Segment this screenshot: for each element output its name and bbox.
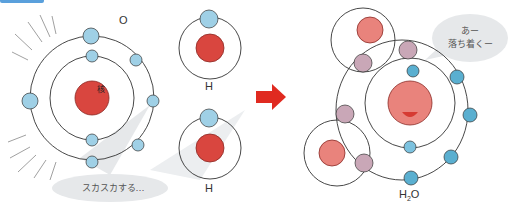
speech-text-left: スカスカする… xyxy=(68,182,158,195)
hydrogen-top-label: H xyxy=(205,80,213,92)
atom-diagram: 核 xyxy=(0,0,508,205)
arrow-right-icon xyxy=(256,84,286,110)
speech-text-right: あー 落ち着くー xyxy=(440,25,500,51)
svg-text:核: 核 xyxy=(97,84,105,94)
electron-face xyxy=(22,93,38,109)
speech-line-2: 落ち着くー xyxy=(440,38,500,51)
electron-face xyxy=(83,28,99,44)
speech-line-1: あー xyxy=(440,25,500,38)
oxygen-atom: 核 xyxy=(22,28,159,168)
hydrogen-bottom-label: H xyxy=(205,182,213,194)
hydrogen-atom-top xyxy=(179,10,241,79)
oxygen-label: O xyxy=(119,14,128,26)
water-label: H2O xyxy=(399,188,419,202)
oxygen-nucleus-happy xyxy=(388,81,432,125)
